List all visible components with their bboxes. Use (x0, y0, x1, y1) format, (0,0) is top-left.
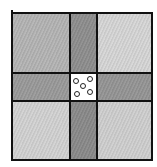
cell-top-left (12, 13, 70, 73)
border-bottom (11, 159, 153, 161)
cell-center (70, 73, 97, 101)
grid-diagram (12, 13, 152, 160)
dot-icon (87, 89, 93, 95)
border-top (11, 12, 153, 14)
border-left (11, 10, 13, 161)
dot-icon (74, 91, 80, 97)
cell-bottom-right (97, 101, 152, 160)
divider-vertical-1 (69, 12, 71, 161)
divider-horizontal-2 (11, 100, 153, 102)
cell-middle-right (97, 73, 152, 101)
divider-horizontal-1 (11, 72, 153, 74)
dot-icon (87, 76, 93, 82)
cell-bottom-left (12, 101, 70, 160)
cell-top-right (97, 13, 152, 73)
cell-bottom-middle (70, 101, 97, 160)
cell-middle-left (12, 73, 70, 101)
divider-vertical-2 (96, 12, 98, 161)
dot-icon (73, 78, 79, 84)
cell-top-middle (70, 13, 97, 73)
border-right (151, 12, 153, 161)
dot-icon (80, 83, 86, 89)
